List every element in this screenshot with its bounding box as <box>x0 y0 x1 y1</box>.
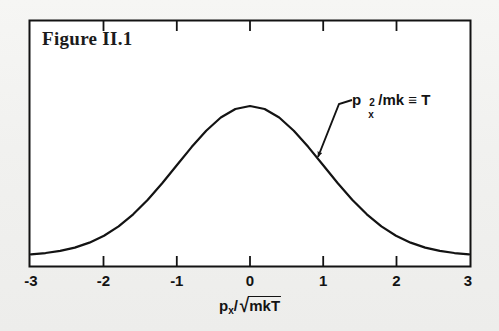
curve-annotation: p2x /mk ≡ T <box>352 92 430 107</box>
annotation-rest: /mk ≡ T <box>374 91 430 108</box>
radical-sign: √ <box>240 296 249 316</box>
annotation-subscript: x <box>368 110 374 120</box>
plot-frame <box>30 21 471 267</box>
x-tick-label-3: 0 <box>246 272 254 289</box>
radicand: mkT <box>248 296 281 313</box>
x-axis-label: px/√mkT <box>219 296 281 316</box>
x-tick-label-2: -1 <box>170 272 183 289</box>
figure-container: Figure II.1 p2x /mk ≡ T -3 -2 -1 0 1 2 3… <box>0 0 499 331</box>
x-tick-label-0: -3 <box>24 272 37 289</box>
annotation-base: p <box>352 91 361 108</box>
x-tick-label-5: 2 <box>392 272 400 289</box>
radical-group: √mkT <box>238 296 281 314</box>
annotation-superscript: 2 <box>369 98 375 108</box>
x-tick-label-1: -2 <box>97 272 110 289</box>
axis-label-numerator: p <box>219 297 228 314</box>
x-tick-label-4: 1 <box>319 272 327 289</box>
figure-title: Figure II.1 <box>42 28 133 50</box>
x-tick-label-6: 3 <box>464 272 472 289</box>
